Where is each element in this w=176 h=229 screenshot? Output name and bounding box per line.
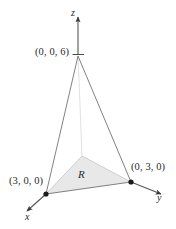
vertex-label-y-intercept: (0, 3, 0) bbox=[131, 162, 165, 173]
region-label-R: R bbox=[78, 169, 85, 180]
axis-label-x: x bbox=[25, 212, 29, 222]
tetrahedron-diagram bbox=[0, 0, 176, 229]
vertex-dot-yint bbox=[128, 179, 133, 184]
edge-apex-to-origin bbox=[78, 56, 82, 156]
figure-container: z x y (0, 0, 6) (3, 0, 0) (0, 3, 0) R bbox=[0, 0, 176, 229]
axis-x-line bbox=[27, 194, 46, 211]
axis-label-y: y bbox=[157, 193, 161, 203]
axis-label-z: z bbox=[71, 8, 75, 18]
vertex-label-apex: (0, 0, 6) bbox=[35, 47, 69, 58]
vertex-label-x-intercept: (3, 0, 0) bbox=[9, 176, 43, 187]
vertex-dot-xint bbox=[43, 191, 48, 196]
